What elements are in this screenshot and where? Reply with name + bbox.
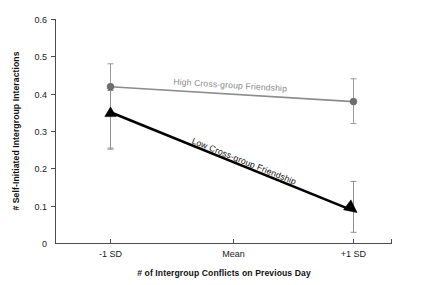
y-tick-label-0.3: 0.3 <box>34 127 47 137</box>
x-axis-title: # of Intergroup Conflicts on Previous Da… <box>137 268 311 278</box>
y-tick-label-0: 0 <box>42 239 47 249</box>
data-point-low-minus1sd <box>105 107 116 117</box>
y-tick-label-0.2: 0.2 <box>34 164 47 174</box>
y-tick-label-0.5: 0.5 <box>34 52 47 62</box>
interaction-plot-svg: 0.6 0.5 0.4 0.3 0.2 0.1 0 -1 SD Mean +1 … <box>0 0 424 285</box>
y-tick-label-0.4: 0.4 <box>34 90 47 100</box>
error-bars-high-friendship <box>108 64 357 148</box>
series-label-low-friendship: Low Cross-group Friendship <box>190 136 298 187</box>
chart-figure: 0.6 0.5 0.4 0.3 0.2 0.1 0 -1 SD Mean +1 … <box>0 0 424 285</box>
y-tick-label-0.6: 0.6 <box>34 15 47 25</box>
x-tick-label-mean: Mean <box>222 249 245 259</box>
y-axis-ticks: 0.6 0.5 0.4 0.3 0.2 0.1 0 <box>34 15 55 249</box>
data-point-high-plus1sd <box>350 98 357 105</box>
data-point-high-minus1sd <box>107 83 114 90</box>
x-tick-label-minus1sd: -1 SD <box>99 249 123 259</box>
data-point-low-plus1sd-arrow <box>344 200 357 213</box>
x-tick-label-plus1sd: +1 SD <box>341 249 367 259</box>
y-tick-label-0.1: 0.1 <box>34 202 47 212</box>
axes-group <box>55 19 392 244</box>
y-axis-title: # Self-Initiated Intergroup Interactions <box>11 51 21 210</box>
x-axis-ticks: -1 SD Mean +1 SD <box>99 239 392 259</box>
